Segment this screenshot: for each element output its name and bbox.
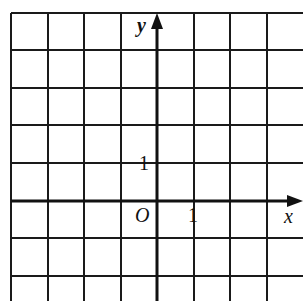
x-axis-label: x [283,205,293,227]
coordinate-grid: y x O 1 1 [0,0,304,301]
y-tick-label: 1 [139,152,149,174]
y-axis-label: y [135,14,146,37]
origin-label: O [135,204,149,226]
x-tick-label: 1 [188,204,198,226]
y-axis-arrow-icon [151,13,163,29]
